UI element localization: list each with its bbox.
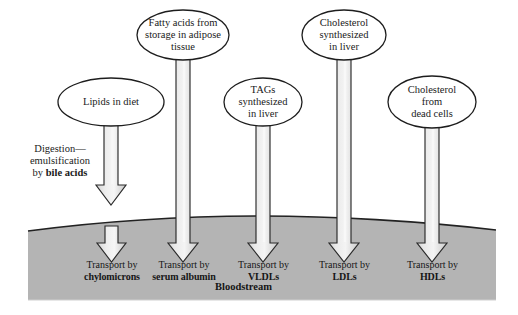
text-line: emulsification bbox=[17, 155, 103, 167]
ellipse-tags-synthesized bbox=[224, 78, 302, 126]
annotation-digestion-emulsification: Digestion— emulsification by bile acids bbox=[17, 143, 103, 180]
lipid-transport-diagram: Lipids in diet Fatty acids from storage … bbox=[0, 0, 518, 315]
text-line: Transport by bbox=[301, 259, 388, 271]
text-line: Digestion— bbox=[17, 143, 103, 155]
ellipse-cholesterol-synthesized bbox=[302, 10, 386, 60]
ellipse-cholesterol-dead-cells bbox=[388, 76, 476, 128]
text-fragment-bold: bile acids bbox=[46, 167, 88, 178]
bloodstream-label: Bloodstream bbox=[215, 281, 272, 292]
text-line: Transport by bbox=[220, 259, 307, 271]
destination-label-vldls: Transport by VLDLs bbox=[220, 259, 307, 282]
ellipse-fatty-acids-adipose bbox=[137, 10, 229, 60]
text-line: Transport by bbox=[137, 259, 231, 271]
text-line: Transport by bbox=[389, 259, 476, 271]
ellipse-lipids-in-diet bbox=[58, 78, 164, 126]
text-fragment: by bbox=[33, 167, 46, 178]
text-line: by bile acids bbox=[17, 167, 103, 179]
destination-label-hdls: Transport by HDLs bbox=[389, 259, 476, 282]
destination-label-serum-albumin: Transport by serum albumin bbox=[137, 259, 231, 282]
text-line-bold: LDLs bbox=[301, 271, 388, 283]
destination-label-ldls: Transport by LDLs bbox=[301, 259, 388, 282]
text-line-bold: HDLs bbox=[389, 271, 476, 283]
